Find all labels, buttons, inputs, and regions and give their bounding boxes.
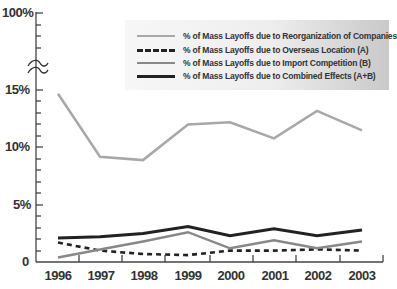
- series-reorganization: [58, 94, 362, 160]
- x-tick-label: 1999: [175, 268, 202, 283]
- y-tick-label-100: 100%: [2, 5, 33, 20]
- x-tick-label: 2002: [305, 268, 332, 283]
- series-layer: [58, 94, 362, 258]
- x-tick-label: 1997: [88, 268, 115, 283]
- x-axis: [36, 255, 383, 262]
- axis-break-icon: [28, 60, 48, 73]
- y-tick-label-5: 5%: [13, 197, 31, 212]
- x-tick-label: 1996: [45, 268, 72, 283]
- series-combined: [58, 227, 362, 239]
- x-tick-label: 2001: [262, 268, 289, 283]
- x-tick-label: 2003: [349, 268, 376, 283]
- y-axis: [36, 12, 43, 262]
- y-tick-label-10: 10%: [5, 139, 30, 154]
- x-tick-label: 2000: [218, 268, 245, 283]
- y-tick-label-15: 15%: [5, 82, 30, 97]
- y-tick-label-0: 0: [22, 254, 29, 269]
- x-tick-label: 1998: [131, 268, 158, 283]
